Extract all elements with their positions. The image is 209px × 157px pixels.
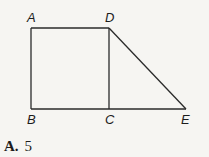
point-label-e: E bbox=[181, 112, 190, 127]
point-label-a: A bbox=[27, 10, 36, 25]
point-label-b: B bbox=[27, 112, 36, 127]
point-label-c: C bbox=[105, 112, 114, 127]
segment-de bbox=[109, 28, 186, 109]
answer-value: 5 bbox=[25, 138, 33, 154]
point-label-d: D bbox=[105, 10, 114, 25]
answer-choice: A.5 bbox=[4, 138, 32, 155]
answer-letter: A. bbox=[4, 138, 19, 154]
